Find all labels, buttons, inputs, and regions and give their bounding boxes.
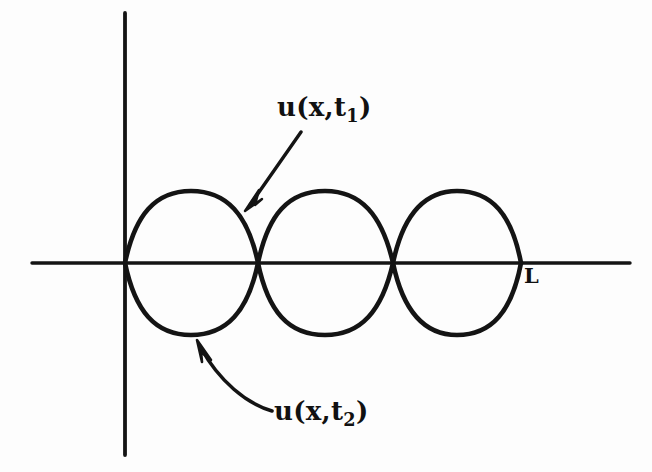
wave-curve-lower [125,263,521,335]
standing-wave-figure: u(x,t1) u(x,t2) L [0,0,652,472]
arrow-to-lower-wave [197,340,272,411]
label-u-x-t2-base: u(x,t [274,396,343,426]
label-u-x-t1-close: ) [359,92,372,122]
label-u-x-t2-close: ) [356,396,369,426]
label-u-x-t1-subscript: 1 [346,105,359,126]
label-u-x-t1: u(x,t1) [277,94,372,120]
label-endpoint-L: L [524,265,539,286]
label-u-x-t2-subscript: 2 [343,409,356,430]
label-u-x-t2: u(x,t2) [274,398,369,424]
label-u-x-t1-base: u(x,t [277,92,346,122]
wave-curve-upper [125,191,521,263]
